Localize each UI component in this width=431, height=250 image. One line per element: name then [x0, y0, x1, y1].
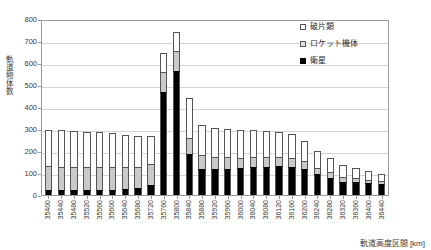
x-tick-label: 36080 — [262, 200, 270, 219]
x-tick-label: 35880 — [198, 200, 206, 219]
stacked-bar — [109, 133, 116, 195]
bar-slot — [132, 21, 145, 195]
x-tick-mark — [356, 196, 357, 199]
bar-segment-debris — [288, 134, 295, 158]
x-tick-label: 35480 — [70, 200, 78, 219]
stacked-bar — [224, 129, 231, 195]
stacked-bar — [96, 132, 103, 195]
stacked-bar — [275, 132, 282, 195]
bar-segment-debris — [378, 174, 385, 181]
x-tick-label: 35920 — [211, 200, 219, 219]
stacked-bar — [327, 158, 334, 195]
x-tick-mark — [305, 196, 306, 199]
bar-segment-debris — [314, 151, 321, 168]
bar-slot — [106, 21, 119, 195]
bar-slot — [221, 21, 234, 195]
x-tick-mark — [241, 196, 242, 199]
x-tick-label: 36440 — [378, 200, 386, 219]
x-tick-mark — [189, 196, 190, 199]
bar-slot — [42, 21, 55, 195]
stacked-bar — [378, 174, 385, 195]
bar-segment-rocket-body — [173, 51, 180, 71]
bar-segment-satellite — [58, 190, 65, 195]
bar-segment-satellite — [122, 189, 129, 195]
bar-segment-rocket-body — [224, 157, 231, 169]
legend-item-debris: 破片類 — [300, 22, 358, 31]
bar-slot — [247, 21, 260, 195]
y-tick-label: 100 — [24, 170, 37, 178]
x-tick-label: 35640 — [121, 200, 129, 219]
x-tick-mark — [382, 196, 383, 199]
stacked-bar — [160, 53, 167, 195]
bar-slot — [209, 21, 222, 195]
x-tick-slot: 36280 — [324, 196, 337, 242]
x-tick-label: 36040 — [249, 200, 257, 219]
bar-segment-debris — [96, 132, 103, 167]
x-tick-slot: 36320 — [337, 196, 350, 242]
bar-segment-satellite — [250, 167, 257, 195]
y-axis-ticks: 0100200300400500600700800 — [0, 0, 41, 196]
bar-segment-rocket-body — [58, 167, 65, 190]
y-tick-label: 600 — [24, 60, 37, 68]
bar-segment-rocket-body — [83, 167, 90, 190]
bar-segment-satellite — [83, 190, 90, 195]
bar-segment-satellite — [96, 190, 103, 195]
x-tick-mark — [138, 196, 139, 199]
stacked-bar — [365, 171, 372, 195]
bar-segment-debris — [224, 129, 231, 157]
x-tick-slot: 35680 — [132, 196, 145, 242]
bar-segment-debris — [134, 136, 141, 166]
bar-segment-satellite — [263, 167, 270, 195]
x-tick-mark — [279, 196, 280, 199]
stacked-bar — [83, 132, 90, 196]
x-tick-label: 35760 — [160, 200, 168, 219]
legend-item-satellite: 衛星 — [300, 56, 358, 65]
bar-segment-rocket-body — [122, 167, 129, 190]
x-tick-mark — [48, 196, 49, 199]
y-tick-label: 700 — [24, 38, 37, 46]
x-tick-slot: 36040 — [247, 196, 260, 242]
stacked-bar — [288, 134, 295, 195]
x-tick-slot: 35880 — [196, 196, 209, 242]
bar-slot — [260, 21, 273, 195]
stacked-bar — [314, 151, 321, 195]
x-tick-mark — [87, 196, 88, 199]
stacked-bar — [250, 130, 257, 195]
bar-slot — [157, 21, 170, 195]
y-tick-label: 200 — [24, 148, 37, 156]
stacked-bar — [70, 131, 77, 195]
bar-segment-debris — [237, 130, 244, 157]
x-tick-slot: 36200 — [298, 196, 311, 242]
x-tick-label: 36200 — [301, 200, 309, 219]
bar-segment-rocket-body — [288, 158, 295, 167]
bar-slot — [170, 21, 183, 195]
bar-segment-debris — [263, 131, 270, 158]
bar-segment-satellite — [327, 178, 334, 195]
bar-slot — [273, 21, 286, 195]
bar-segment-rocket-body — [250, 157, 257, 167]
bar-segment-satellite — [301, 169, 308, 195]
x-tick-slot: 35760 — [157, 196, 170, 242]
legend-swatch-debris-icon — [300, 24, 306, 30]
bar-segment-rocket-body — [134, 167, 141, 189]
x-tick-slot: 35840 — [183, 196, 196, 242]
bar-segment-rocket-body — [45, 166, 52, 190]
x-tick-mark — [164, 196, 165, 199]
x-tick-slot: 35960 — [221, 196, 234, 242]
stacked-bar — [134, 136, 141, 195]
bar-segment-rocket-body — [96, 167, 103, 190]
bar-segment-debris — [109, 133, 116, 166]
x-tick-slot: 36160 — [285, 196, 298, 242]
bar-segment-satellite — [224, 169, 231, 195]
stacked-bar — [147, 136, 154, 195]
stacked-bar — [301, 141, 308, 195]
bar-segment-rocket-body — [186, 138, 193, 155]
bar-segment-satellite — [378, 184, 385, 195]
x-tick-mark — [317, 196, 318, 199]
x-tick-slot: 35520 — [80, 196, 93, 242]
legend-label-satellite: 衛星 — [310, 56, 326, 65]
bar-segment-debris — [58, 130, 65, 167]
bar-segment-debris — [70, 131, 77, 167]
bar-segment-satellite — [186, 154, 193, 195]
x-tick-label: 35960 — [224, 200, 232, 219]
